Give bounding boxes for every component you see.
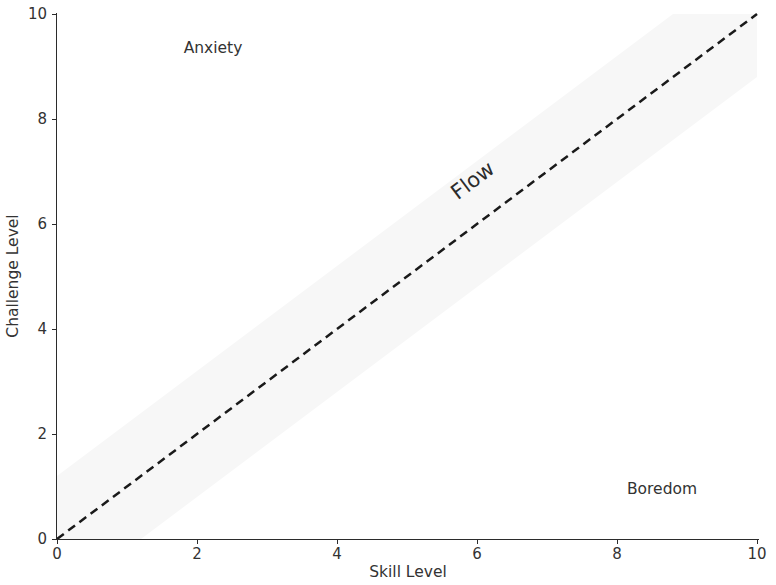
annotation-anxiety: Anxiety [184,41,243,57]
x-tick-label-0: 0 [52,547,62,562]
x-tick-label-6: 6 [472,547,482,562]
plot-svg [57,14,757,539]
y-axis-spine [56,13,57,540]
y-axis-title: Challenge Level [6,214,22,337]
y-tick-2 [52,434,57,435]
plot-area [57,14,757,539]
x-tick-label-4: 4 [332,547,342,562]
x-tick-0 [57,540,58,545]
annotation-boredom: Boredom [627,482,697,498]
x-tick-label-8: 8 [612,547,622,562]
y-tick-label-2: 2 [37,427,47,442]
x-tick-label-2: 2 [192,547,202,562]
y-tick-label-6: 6 [37,217,47,232]
x-tick-8 [617,540,618,545]
y-tick-10 [52,14,57,15]
y-tick-label-8: 8 [37,112,47,127]
y-tick-label-4: 4 [37,322,47,337]
y-tick-label-0: 0 [37,532,47,547]
x-axis-spine [56,539,759,540]
x-axis-title: Skill Level [369,565,447,581]
x-tick-2 [197,540,198,545]
y-tick-label-10: 10 [28,7,47,22]
x-tick-10 [757,540,758,545]
x-tick-6 [477,540,478,545]
y-tick-4 [52,329,57,330]
flow-diagonal-line [57,14,757,539]
y-tick-6 [52,224,57,225]
y-tick-0 [52,539,57,540]
x-tick-label-10: 10 [747,547,766,562]
flow-channel-chart: 0 2 4 6 8 10 0 2 4 6 8 10 Skill Level Ch… [0,0,776,585]
x-tick-4 [337,540,338,545]
y-tick-8 [52,119,57,120]
